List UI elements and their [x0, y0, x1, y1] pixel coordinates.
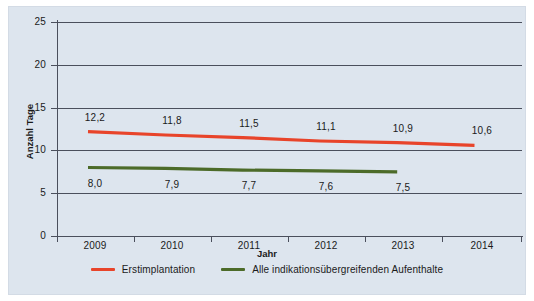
data-label-red-2011: 11,5	[227, 118, 271, 129]
chart-figure: 25 20 15 10 5 0 2009 2010 2011 2012 2013…	[0, 0, 534, 301]
y-axis-label-0: 0	[6, 230, 46, 241]
data-label-green-2011: 7,7	[227, 180, 271, 191]
gridline-10	[57, 150, 522, 151]
data-label-red-2009: 12,2	[73, 112, 117, 123]
data-label-green-2010: 7,9	[150, 179, 194, 190]
y-tick-5	[51, 193, 58, 194]
data-label-red-2013: 10,9	[381, 123, 425, 134]
x-tick-3	[288, 236, 289, 242]
y-tick-25	[51, 22, 58, 23]
gridline-15	[57, 108, 522, 109]
x-axis-title: Jahr	[0, 248, 534, 259]
y-axis-label-5: 5	[6, 187, 46, 198]
y-tick-10	[51, 150, 58, 151]
gridline-5	[57, 193, 522, 194]
x-tick-6	[521, 236, 522, 242]
y-axis-label-20: 20	[6, 59, 46, 70]
data-label-red-2010: 11,8	[150, 115, 194, 126]
legend-swatch-green-icon	[221, 268, 245, 271]
plot-area	[57, 22, 522, 236]
legend-item-alle-aufenthalte[interactable]: Alle indikationsübergreifenden Aufenthal…	[221, 264, 443, 275]
y-axis-line	[57, 20, 58, 238]
x-tick-5	[442, 236, 443, 242]
data-label-green-2013: 7,5	[381, 182, 425, 193]
x-axis-line	[57, 236, 523, 237]
gridline-25	[57, 22, 522, 23]
y-axis-label-25: 25	[6, 16, 46, 27]
y-tick-15	[51, 108, 58, 109]
legend-swatch-red-icon	[91, 268, 115, 271]
y-tick-20	[51, 65, 58, 66]
x-tick-0	[57, 236, 58, 242]
gridline-20	[57, 65, 522, 66]
data-label-red-2012: 11,1	[304, 121, 348, 132]
x-tick-1	[134, 236, 135, 242]
legend-item-erstimplantation[interactable]: Erstimplantation	[91, 264, 195, 275]
y-axis-title: Anzahl Tage	[24, 97, 35, 167]
x-tick-4	[365, 236, 366, 242]
legend: Erstimplantation Alle indikationsübergre…	[0, 264, 534, 275]
legend-label-erstimplantation: Erstimplantation	[122, 264, 195, 275]
x-tick-2	[211, 236, 212, 242]
data-label-green-2009: 8,0	[73, 178, 117, 189]
legend-label-alle-aufenthalte: Alle indikationsübergreifenden Aufenthal…	[252, 264, 443, 275]
data-label-red-2014: 10,6	[460, 125, 504, 136]
data-label-green-2012: 7,6	[304, 181, 348, 192]
